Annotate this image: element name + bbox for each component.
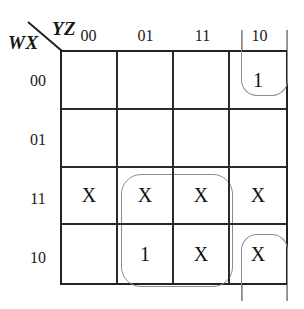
kmap-cell-r3c0[interactable] bbox=[62, 225, 118, 283]
kmap-cell-r1c0[interactable] bbox=[62, 110, 118, 168]
kmap-cell-r0c1[interactable] bbox=[118, 52, 174, 110]
karnaugh-map-figure: YZ WX 00 01 11 10 00 01 11 10 1 X X X X … bbox=[0, 0, 304, 309]
cell-value: X bbox=[194, 244, 208, 264]
row-variable-label: WX bbox=[8, 32, 39, 54]
kmap-cell-r1c2[interactable] bbox=[174, 110, 230, 168]
col-header-0: 00 bbox=[60, 27, 117, 45]
kmap-cell-r0c2[interactable] bbox=[174, 52, 230, 110]
kmap-cell-r3c3[interactable]: X bbox=[230, 225, 286, 283]
cell-value: X bbox=[251, 244, 265, 264]
kmap-cell-r3c2[interactable]: X bbox=[174, 225, 230, 283]
col-header-3: 10 bbox=[231, 27, 288, 45]
cell-value: X bbox=[251, 185, 265, 205]
kmap-cell-r0c0[interactable] bbox=[62, 52, 118, 110]
kmap-cell-r1c3[interactable] bbox=[230, 110, 286, 168]
cell-value: X bbox=[194, 185, 208, 205]
cell-value: X bbox=[138, 185, 152, 205]
kmap-cell-r2c0[interactable]: X bbox=[62, 168, 118, 226]
kmap-cell-r2c1[interactable]: X bbox=[118, 168, 174, 226]
kmap-cell-r1c1[interactable] bbox=[118, 110, 174, 168]
col-header-2: 11 bbox=[174, 27, 231, 45]
row-header-0: 00 bbox=[22, 72, 54, 90]
cell-value: X bbox=[82, 185, 96, 205]
kmap-grid: 1 X X X X 1 X X bbox=[60, 50, 288, 285]
kmap-cell-r0c3[interactable]: 1 bbox=[230, 52, 286, 110]
cell-value: 1 bbox=[140, 244, 150, 264]
row-header-3: 10 bbox=[22, 249, 54, 267]
kmap-cell-r2c2[interactable]: X bbox=[174, 168, 230, 226]
cell-value: 1 bbox=[253, 70, 263, 90]
col-header-1: 01 bbox=[117, 27, 174, 45]
kmap-cell-r2c3[interactable]: X bbox=[230, 168, 286, 226]
row-header-2: 11 bbox=[22, 190, 54, 208]
row-header-1: 01 bbox=[22, 131, 54, 149]
kmap-cell-r3c1[interactable]: 1 bbox=[118, 225, 174, 283]
